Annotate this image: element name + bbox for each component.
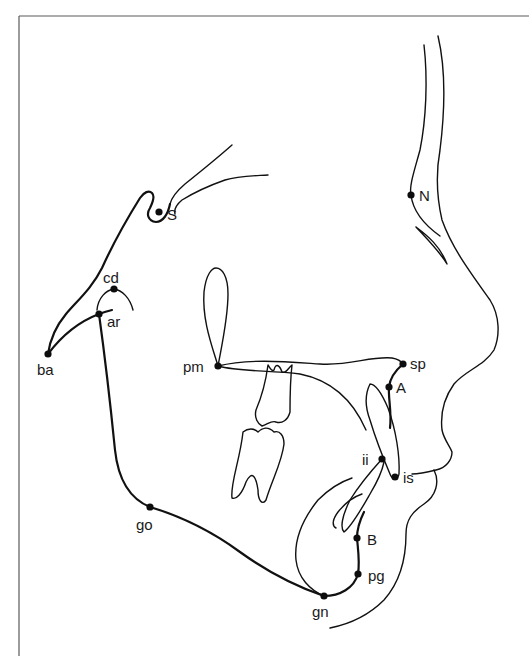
landmark-ba: ba	[37, 350, 54, 378]
landmark-dot-icon	[44, 350, 51, 357]
symphysis-anterior-outline	[324, 512, 364, 596]
soft-tissue-lower-lip-chin	[330, 470, 437, 628]
palatal-plane-upper	[218, 358, 403, 366]
landmark-label: cd	[103, 269, 119, 286]
ramus-line	[99, 314, 150, 507]
landmark-label: gn	[312, 603, 329, 620]
landmark-label: sp	[410, 355, 426, 372]
soft-tissue-nasion-outline	[411, 45, 440, 236]
landmark-dot-icon	[354, 570, 361, 577]
landmark-dot-icon	[399, 360, 406, 367]
landmark-is: is	[391, 469, 413, 486]
landmark-cd: cd	[103, 269, 119, 293]
landmark-label: S	[167, 206, 177, 223]
landmark-label: N	[419, 187, 430, 204]
landmark-dot-icon	[407, 191, 414, 198]
mandibular-plane-line	[150, 507, 324, 596]
landmark-dot-icon	[155, 208, 162, 215]
pterygomaxillary-fissure	[204, 268, 228, 366]
nasal-bone-inner	[416, 227, 447, 264]
landmark-dot-icon	[320, 592, 327, 599]
landmark-s: S	[155, 206, 177, 223]
cephalometric-diagram: SNcdarbapmspAiiisgoBpggn	[0, 0, 529, 656]
soft-tissue-profile	[412, 36, 498, 474]
symphysis-posterior-outline	[296, 478, 352, 596]
landmark-label: ii	[362, 451, 369, 468]
landmark-dot-icon	[95, 310, 102, 317]
landmark-label: ar	[107, 313, 120, 330]
landmark-sp: sp	[399, 355, 425, 372]
upper-molar	[255, 365, 292, 426]
palatal-plane-lower	[218, 366, 366, 430]
tracing-canvas: SNcdarbapmspAiiisgoBpggn	[0, 0, 529, 656]
landmark-label: pg	[368, 567, 385, 584]
landmark-go: go	[136, 503, 154, 533]
anterior-cranial-base-upper	[170, 145, 232, 204]
landmark-label: go	[136, 516, 153, 533]
landmark-gn: gn	[312, 592, 329, 620]
landmark-dot-icon	[214, 362, 221, 369]
lower-incisor-root	[333, 494, 362, 528]
landmark-label: A	[396, 379, 406, 396]
landmark-label: ba	[37, 361, 54, 378]
lower-incisor	[342, 459, 384, 532]
lower-molar	[232, 428, 284, 502]
landmark-dot-icon	[385, 383, 392, 390]
landmark-label: is	[403, 469, 414, 486]
landmark-label: pm	[183, 358, 204, 375]
landmark-dot-icon	[391, 473, 398, 480]
landmark-dot-icon	[146, 503, 153, 510]
landmark-points: SNcdarbapmspAiiisgoBpggn	[37, 187, 430, 620]
landmark-label: B	[367, 531, 377, 548]
landmark-dot-icon	[378, 455, 385, 462]
landmark-dot-icon	[110, 285, 117, 292]
upper-incisor	[366, 384, 399, 479]
landmark-dot-icon	[353, 534, 360, 541]
